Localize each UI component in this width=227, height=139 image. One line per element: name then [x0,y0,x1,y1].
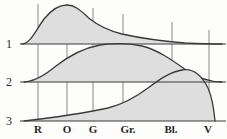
chart-svg: 1 2 3 R O G Gr. Bl. V [0,0,227,139]
y-axis-label-2: 2 [6,75,12,89]
y-axis-label-1: 1 [6,37,12,51]
x-tick-label-Bl: Bl. [164,123,177,135]
x-tick-label-R: R [34,123,43,135]
x-tick-label-O: O [63,123,72,135]
x-tick-label-Gr: Gr. [120,123,135,135]
y-axis-labels: 1 2 3 [6,37,12,128]
y-axis-label-3: 3 [6,114,12,128]
x-tick-label-V: V [204,123,212,135]
spectral-response-figure: 1 2 3 R O G Gr. Bl. V [0,0,227,139]
x-tick-label-G: G [89,123,98,135]
